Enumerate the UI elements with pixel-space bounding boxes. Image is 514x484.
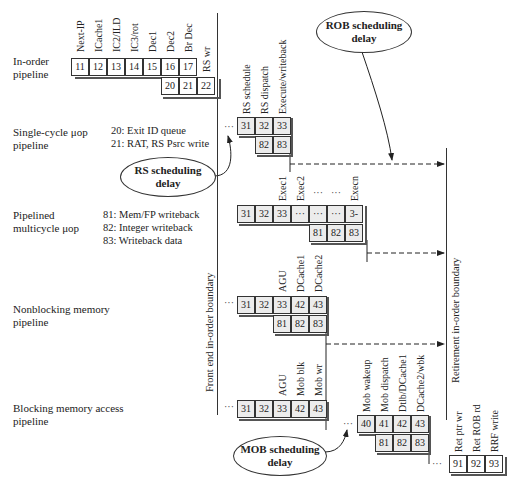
stage-cell: 33 bbox=[273, 205, 291, 223]
stage-header: Execn bbox=[349, 176, 360, 201]
front-end-boundary-line bbox=[217, 13, 218, 415]
stage-cell: 42 bbox=[393, 415, 411, 433]
stage-cell: 12 bbox=[89, 58, 107, 76]
stage-cell: 33 bbox=[273, 117, 291, 135]
stage-header: ICache1 bbox=[93, 19, 104, 52]
ellipsis: ··· bbox=[343, 418, 353, 429]
bubble-line: MOB scheduling bbox=[240, 443, 319, 456]
stage-header: Mob blk bbox=[295, 362, 306, 396]
row-label-pipelined-2: multicycle μop bbox=[13, 222, 79, 235]
stage-header: Next-IP bbox=[75, 20, 86, 52]
stage-cell: 43 bbox=[309, 400, 327, 418]
row-label-pipelined: Pipelined bbox=[13, 209, 55, 222]
stage-cell: 81 bbox=[375, 434, 393, 452]
stage-header: DCache2/wbk bbox=[415, 355, 426, 412]
retirement-boundary-line bbox=[446, 148, 447, 420]
stage-cell: 42 bbox=[291, 400, 309, 418]
stage-cell: 93 bbox=[485, 455, 503, 473]
row-label-singlecycle: Single-cycle μop bbox=[13, 126, 88, 139]
row-label-blocking: Blocking memory access bbox=[13, 402, 124, 415]
stage-cell: 22 bbox=[197, 77, 215, 95]
stage-cell: ··· bbox=[291, 205, 309, 223]
stage-cell: 33 bbox=[273, 296, 291, 314]
stage-cell: 20 bbox=[161, 77, 179, 95]
stage-header: Br Dec bbox=[183, 23, 194, 52]
stage-cell: 83 bbox=[345, 224, 363, 242]
stage-cell: 17 bbox=[179, 58, 197, 76]
rs-scheduling-delay-bubble: RS scheduling delay bbox=[120, 157, 216, 197]
stage-cell: 32 bbox=[255, 400, 273, 418]
stage-cell: 15 bbox=[143, 58, 161, 76]
note-81: 81: Mem/FP writeback bbox=[103, 209, 199, 222]
stage-header: IC3/rot bbox=[129, 23, 140, 52]
stage-header: Dec2 bbox=[165, 31, 176, 52]
note-20: 20: Exit ID queue bbox=[111, 125, 186, 138]
stage-cell: 83 bbox=[309, 315, 327, 333]
stage-cell: 31 bbox=[237, 296, 255, 314]
stage-cell: 14 bbox=[125, 58, 143, 76]
stage-header: RRF write bbox=[489, 410, 500, 452]
stage-header: Execute/writeback bbox=[277, 40, 288, 114]
ellipsis: ··· bbox=[313, 187, 323, 198]
stage-header: AGU bbox=[277, 270, 288, 292]
ellipsis: ··· bbox=[331, 187, 341, 198]
row-label-nonblocking-2: pipeline bbox=[13, 316, 48, 329]
stage-header: AGU bbox=[277, 374, 288, 396]
stage-cell: 11 bbox=[71, 58, 89, 76]
row-label-singlecycle-2: pipeline bbox=[13, 139, 48, 152]
row-label-inorder: In-order bbox=[13, 55, 49, 68]
stage-header: Exec1 bbox=[277, 176, 288, 201]
stage-header: Ret ptr wr bbox=[453, 411, 464, 452]
bubble-line: delay bbox=[155, 177, 180, 190]
row-label-blocking-2: pipeline bbox=[13, 415, 48, 428]
stage-cell: 81 bbox=[309, 224, 327, 242]
stage-header: RS schedule bbox=[241, 64, 252, 114]
stage-cell: 41 bbox=[375, 415, 393, 433]
stage-cell: 3- bbox=[345, 205, 363, 223]
stage-header: RS dispatch bbox=[259, 66, 270, 114]
stage-cell: 32 bbox=[255, 205, 273, 223]
stage-header: Dec1 bbox=[147, 31, 158, 52]
stage-header: RS wr bbox=[201, 47, 212, 72]
stage-cell: 82 bbox=[291, 315, 309, 333]
stage-header: DCache1 bbox=[295, 255, 306, 292]
mob-delay-arrow bbox=[325, 430, 347, 452]
stage-header: DCache2 bbox=[313, 255, 324, 292]
bubble-line: delay bbox=[267, 456, 292, 469]
mob-scheduling-delay-bubble: MOB scheduling delay bbox=[233, 436, 327, 476]
stage-cell: 43 bbox=[309, 296, 327, 314]
stage-cell: 43 bbox=[411, 415, 429, 433]
stage-cell: 82 bbox=[327, 224, 345, 242]
stage-cell: 32 bbox=[255, 117, 273, 135]
stage-cell: 31 bbox=[237, 400, 255, 418]
stage-cell: 82 bbox=[255, 136, 273, 154]
stage-header: Dtlb/DCache1 bbox=[397, 354, 408, 412]
stage-cell: 40 bbox=[357, 415, 375, 433]
row-label-inorder-2: pipeline bbox=[13, 68, 48, 81]
ellipsis: ··· bbox=[224, 121, 234, 132]
stage-cell: 31 bbox=[237, 117, 255, 135]
note-82: 82: Integer writeback bbox=[103, 222, 193, 235]
bubble-line: RS scheduling bbox=[135, 164, 202, 177]
rob-delay-arrow bbox=[362, 52, 392, 160]
stage-cell: 82 bbox=[393, 434, 411, 452]
stage-cell: 42 bbox=[291, 296, 309, 314]
front-end-boundary-label: Front end in-order boundary bbox=[204, 273, 215, 392]
rob-scheduling-delay-bubble: ROB scheduling delay bbox=[316, 11, 412, 53]
stage-cell: 92 bbox=[467, 455, 485, 473]
note-21: 21: RAT, RS Psrc write bbox=[111, 138, 209, 151]
stage-header: IC2/ILD bbox=[111, 18, 122, 52]
note-83: 83: Writeback data bbox=[103, 235, 182, 248]
ellipsis: ··· bbox=[432, 458, 442, 469]
stage-header: Ret ROB rd bbox=[471, 404, 482, 452]
ellipsis: ··· bbox=[224, 297, 234, 308]
stage-cell: 13 bbox=[107, 58, 125, 76]
bubble-line: delay bbox=[351, 32, 376, 45]
stage-cell: 83 bbox=[273, 136, 291, 154]
stage-header: Mob wr bbox=[313, 364, 324, 396]
stage-cell: 33 bbox=[273, 400, 291, 418]
stage-cell: 31 bbox=[237, 205, 255, 223]
stage-cell: 32 bbox=[255, 296, 273, 314]
bubble-line: ROB scheduling bbox=[326, 19, 403, 32]
stage-header: Exec2 bbox=[295, 176, 306, 201]
